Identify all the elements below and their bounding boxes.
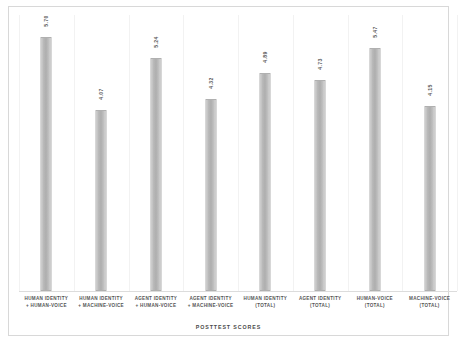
bar-slot: 5.24 <box>129 15 184 291</box>
bar-slot: 4.73 <box>293 15 348 291</box>
x-axis-label-line: AGENT IDENTITY <box>183 296 238 303</box>
x-axis-category-labels: HUMAN IDENTITY+ HUMAN-VOICEHUMAN IDENTIT… <box>19 296 457 320</box>
bar[interactable] <box>424 106 435 291</box>
bar-value-label: 4.07 <box>98 77 104 111</box>
bar-slot: 4.07 <box>74 15 129 291</box>
bar[interactable] <box>150 58 161 291</box>
bar-value-label: 5.70 <box>43 4 49 38</box>
x-axis-label-line: AGENT IDENTITY <box>293 296 348 303</box>
x-axis-line <box>19 291 457 292</box>
x-axis-label-line: (TOTAL) <box>348 303 403 310</box>
bar[interactable] <box>41 37 52 291</box>
chart-frame: 5.704.075.244.324.894.735.474.15 HUMAN I… <box>8 6 449 336</box>
x-axis-label-line: AGENT IDENTITY <box>129 296 184 303</box>
bar-value-label: 4.15 <box>427 73 433 107</box>
bar[interactable] <box>96 110 107 291</box>
bar-value-label: 4.73 <box>317 47 323 81</box>
x-axis-label: MACHINE-VOICE(TOTAL) <box>402 296 457 309</box>
bar-value-label: 5.47 <box>372 15 378 49</box>
x-axis-label-line: HUMAN-VOICE <box>348 296 403 303</box>
bar-slot: 4.15 <box>402 15 457 291</box>
bar-value-label: 4.89 <box>262 40 268 74</box>
x-axis-label: HUMAN IDENTITY+ MACHINE-VOICE <box>74 296 129 309</box>
x-axis-label: AGENT IDENTITY+ HUMAN-VOICE <box>129 296 184 309</box>
bar[interactable] <box>260 73 271 291</box>
bar-slot: 4.89 <box>238 15 293 291</box>
plot-area: 5.704.075.244.324.894.735.474.15 <box>19 15 457 291</box>
x-axis-label: HUMAN-VOICE(TOTAL) <box>348 296 403 309</box>
x-axis-label: HUMAN IDENTITY+ HUMAN-VOICE <box>19 296 74 309</box>
x-axis-label-line: (TOTAL) <box>238 303 293 310</box>
bar-slot: 4.32 <box>183 15 238 291</box>
bar[interactable] <box>369 48 380 292</box>
bar[interactable] <box>205 99 216 291</box>
x-axis-label-line: + MACHINE-VOICE <box>74 303 129 310</box>
bar-series: 5.704.075.244.324.894.735.474.15 <box>19 15 457 291</box>
x-axis-label-line: + HUMAN-VOICE <box>19 303 74 310</box>
x-axis-label-line: HUMAN IDENTITY <box>19 296 74 303</box>
x-axis-label-line: HUMAN IDENTITY <box>74 296 129 303</box>
x-axis-label-line: + MACHINE-VOICE <box>183 303 238 310</box>
bar[interactable] <box>315 80 326 291</box>
bar-slot: 5.47 <box>348 15 403 291</box>
x-axis-label-line: MACHINE-VOICE <box>402 296 457 303</box>
x-axis-label: AGENT IDENTITY(TOTAL) <box>293 296 348 309</box>
x-axis-label-line: (TOTAL) <box>402 303 457 310</box>
bar-value-label: 4.32 <box>208 66 214 100</box>
bar-slot: 5.70 <box>19 15 74 291</box>
x-axis-label-line: HUMAN IDENTITY <box>238 296 293 303</box>
x-axis-label-line: (TOTAL) <box>293 303 348 310</box>
x-axis-label: AGENT IDENTITY+ MACHINE-VOICE <box>183 296 238 309</box>
x-axis-label-line: + HUMAN-VOICE <box>129 303 184 310</box>
x-axis-label: HUMAN IDENTITY(TOTAL) <box>238 296 293 309</box>
x-axis-title: POSTTEST SCORES <box>9 324 448 330</box>
bar-value-label: 5.24 <box>153 25 159 59</box>
